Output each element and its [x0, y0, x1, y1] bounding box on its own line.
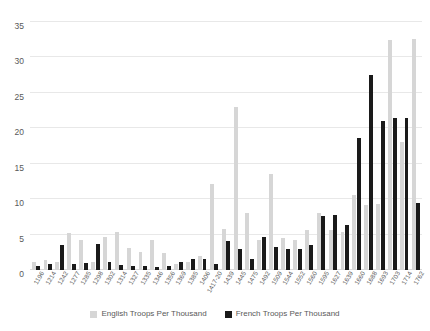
x-tick-label: 1445	[234, 270, 247, 286]
bar-french	[286, 249, 290, 270]
legend-item[interactable]: French Troops Per Thousand	[225, 310, 340, 318]
bar-french	[393, 118, 397, 270]
x-tick-label: 1335	[139, 270, 152, 286]
bar-english	[388, 40, 392, 270]
x-axis-labels: 1196121412421277128512981302131413271335…	[30, 270, 422, 310]
bar-group	[101, 22, 113, 270]
bar-group	[410, 22, 422, 270]
bar-french	[96, 244, 100, 270]
bar-english	[329, 230, 333, 270]
bar-english	[91, 262, 95, 271]
bar-group	[220, 22, 232, 270]
x-tick-label: 1560	[305, 270, 318, 286]
bar-english	[376, 204, 380, 270]
x-tick-label: 1298	[91, 270, 104, 286]
x-tick-label: 1327	[127, 270, 140, 286]
bar-english	[162, 253, 166, 270]
bar-group	[268, 22, 280, 270]
x-tick-label: 1509	[269, 270, 282, 286]
bar-french	[191, 259, 195, 270]
x-tick-label: 1285	[79, 270, 92, 286]
bar-group	[398, 22, 410, 270]
bar-group	[54, 22, 66, 270]
bar-french	[238, 249, 242, 270]
x-tick-label: 1302	[103, 270, 116, 286]
bar-french	[309, 245, 313, 270]
bar-group	[184, 22, 196, 270]
bar-english	[44, 260, 48, 270]
bar-group	[161, 22, 173, 270]
bar-french	[179, 262, 183, 270]
x-tick-label: 1385	[186, 270, 199, 286]
x-tick-label: 1214	[44, 270, 57, 286]
bar-english	[127, 248, 131, 270]
x-tick-label: 1552	[293, 270, 306, 286]
x-tick-label: 1703	[388, 270, 401, 286]
x-tick-label: 1369	[174, 270, 187, 286]
bar-group	[279, 22, 291, 270]
x-tick-label: 1595	[317, 270, 330, 286]
bar-french	[298, 249, 302, 270]
legend-label: French Troops Per Thousand	[236, 310, 340, 318]
bar-group	[374, 22, 386, 270]
bar-group	[173, 22, 185, 270]
bar-english	[364, 205, 368, 270]
bar-english	[352, 195, 356, 270]
x-tick-label: 1346	[151, 270, 164, 286]
y-axis-labels: 05101520253035	[0, 22, 28, 270]
bars-container	[30, 22, 422, 270]
x-tick-label: 1439	[222, 270, 235, 286]
bar-french	[405, 118, 409, 270]
bar-english	[115, 232, 119, 270]
x-tick-label: 1688	[364, 270, 377, 286]
bar-french	[416, 203, 420, 270]
bar-group	[386, 22, 398, 270]
bar-chart: 05101520253035 1196121412421277128512981…	[0, 0, 430, 331]
x-tick-label: 1544	[281, 270, 294, 286]
bar-group	[291, 22, 303, 270]
bar-english	[234, 107, 238, 270]
bar-group	[244, 22, 256, 270]
legend-item[interactable]: English Troops Per Thousand	[90, 310, 206, 318]
bar-group	[196, 22, 208, 270]
x-tick-label: 1660	[353, 270, 366, 286]
bar-group	[149, 22, 161, 270]
bar-group	[89, 22, 101, 270]
bar-english	[257, 240, 261, 270]
bar-french	[333, 215, 337, 270]
x-tick-label: 1356	[162, 270, 175, 286]
bar-group	[78, 22, 90, 270]
bar-french	[250, 259, 254, 270]
bar-group	[327, 22, 339, 270]
x-tick-label: 1314	[115, 270, 128, 286]
bar-group	[208, 22, 220, 270]
bar-group	[256, 22, 268, 270]
bar-english	[341, 232, 345, 270]
bar-english	[293, 240, 297, 270]
bar-french	[321, 216, 325, 270]
bar-english	[139, 252, 143, 270]
bar-group	[66, 22, 78, 270]
bar-english	[186, 262, 190, 271]
bar-english	[412, 39, 416, 270]
x-tick-label: 1627	[329, 270, 342, 286]
bar-english	[198, 256, 202, 270]
bar-english	[222, 229, 226, 270]
chart-legend: English Troops Per ThousandFrench Troops…	[0, 310, 430, 318]
bar-group	[125, 22, 137, 270]
x-tick-label: 1693	[376, 270, 389, 286]
bar-english	[79, 240, 83, 270]
bar-french	[203, 259, 207, 270]
bar-group	[113, 22, 125, 270]
legend-label: English Troops Per Thousand	[101, 310, 206, 318]
legend-swatch-icon	[90, 311, 97, 318]
bar-french	[226, 241, 230, 270]
bar-group	[351, 22, 363, 270]
bar-french	[60, 245, 64, 271]
bar-english	[305, 230, 309, 270]
bar-group	[30, 22, 42, 270]
bar-english	[210, 184, 214, 270]
bar-group	[363, 22, 375, 270]
x-tick-label: 1714	[400, 270, 413, 286]
bar-group	[303, 22, 315, 270]
